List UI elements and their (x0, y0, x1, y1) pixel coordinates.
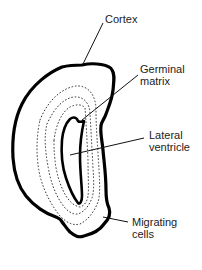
cortex-outline (13, 64, 114, 237)
label-cortex: Cortex (105, 13, 137, 25)
lateral-ventricle-outline (62, 118, 84, 204)
migrating-cells-band-outer (37, 86, 100, 225)
label-migrating-cells: Migrating cells (132, 216, 177, 240)
cortex-leader-line (83, 23, 103, 64)
migrating-cells-band-middle (45, 97, 93, 214)
germinal-matrix-leader-line (82, 75, 138, 120)
label-germinal-matrix: Germinal matrix (140, 63, 185, 87)
label-lateral-ventricle: Lateral ventricle (149, 129, 190, 153)
